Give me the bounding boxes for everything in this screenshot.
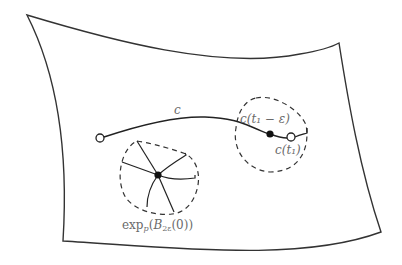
label-c-t1: c(t₁) <box>275 144 301 156</box>
point-c-t1 <box>287 133 295 141</box>
diagram-canvas: c c(t₁ − ε) c(t₁) expp(B2ε(0)) <box>0 0 402 265</box>
diagram-svg <box>0 0 402 265</box>
label-curve-c-text: c <box>174 103 181 117</box>
label-exp-ball: expp(B2ε(0)) <box>122 219 193 233</box>
curve-start-point <box>96 134 104 142</box>
label-B: B <box>153 218 162 232</box>
label-paren-close: (0)) <box>171 218 193 232</box>
label-c-t1-minus-eps: c(t₁ − ε) <box>240 113 290 125</box>
label-c-t1-minus-eps-text: c(t₁ − ε) <box>240 112 290 126</box>
curve-tail <box>295 128 307 137</box>
point-c-t1-minus-eps <box>266 130 273 137</box>
label-c-t1-text: c(t₁) <box>275 143 301 157</box>
surface-outline <box>27 15 381 250</box>
label-curve-c: c <box>174 104 181 116</box>
label-exp: exp <box>122 218 144 232</box>
point-p <box>154 171 161 178</box>
